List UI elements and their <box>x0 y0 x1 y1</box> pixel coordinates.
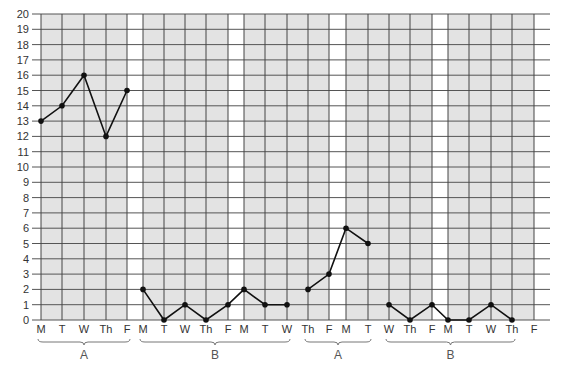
data-point-marker <box>225 302 231 308</box>
y-tick-label: 3 <box>23 268 29 280</box>
x-axis-day-labels: MTWThFMTWThFMTWThFMTWThFMTWThF <box>36 323 537 335</box>
data-point-marker <box>343 225 349 231</box>
x-tick-label: W <box>384 323 395 335</box>
x-tick-label: T <box>466 323 473 335</box>
x-tick-label: F <box>225 323 232 335</box>
x-tick-label: Th <box>100 323 113 335</box>
data-point-marker <box>305 287 311 293</box>
y-tick-label: 2 <box>23 283 29 295</box>
data-point-marker <box>365 241 371 247</box>
y-tick-label: 15 <box>17 85 29 97</box>
phase-bracket <box>305 339 371 345</box>
data-point-marker <box>509 317 515 323</box>
y-tick-label: 14 <box>17 100 29 112</box>
x-tick-label: M <box>239 323 248 335</box>
y-tick-label: 1 <box>23 299 29 311</box>
y-tick-label: 16 <box>17 69 29 81</box>
data-point-marker <box>182 302 188 308</box>
y-tick-label: 4 <box>23 253 29 265</box>
y-tick-label: 6 <box>23 222 29 234</box>
x-tick-label: Th <box>506 323 519 335</box>
x-tick-label: Th <box>404 323 417 335</box>
data-point-marker <box>262 302 268 308</box>
y-tick-label: 7 <box>23 207 29 219</box>
x-tick-label: M <box>341 323 350 335</box>
x-tick-label: T <box>161 323 168 335</box>
data-point-marker <box>407 317 413 323</box>
y-tick-label: 13 <box>17 115 29 127</box>
y-tick-label: 8 <box>23 192 29 204</box>
x-tick-label: M <box>138 323 147 335</box>
data-point-marker <box>59 103 65 109</box>
y-tick-label: 10 <box>17 161 29 173</box>
x-tick-label: T <box>262 323 269 335</box>
data-point-marker <box>161 317 167 323</box>
x-tick-label: Th <box>302 323 315 335</box>
y-tick-label: 0 <box>23 314 29 326</box>
y-tick-label: 19 <box>17 23 29 35</box>
x-tick-label: W <box>79 323 90 335</box>
horizontal-gridlines <box>32 14 550 320</box>
x-tick-label: F <box>531 323 538 335</box>
data-point-marker <box>241 287 247 293</box>
x-tick-label: F <box>326 323 333 335</box>
phase-bracket <box>386 339 515 345</box>
y-tick-label: 9 <box>23 176 29 188</box>
data-point-marker <box>203 317 209 323</box>
data-point-marker <box>429 302 435 308</box>
phase-bracket <box>38 339 130 345</box>
y-tick-label: 17 <box>17 54 29 66</box>
x-tick-label: M <box>36 323 45 335</box>
data-point-marker <box>81 72 87 78</box>
data-point-marker <box>326 271 332 277</box>
data-point-marker <box>124 88 130 94</box>
data-point-marker <box>386 302 392 308</box>
x-tick-label: W <box>486 323 497 335</box>
x-tick-label: W <box>180 323 191 335</box>
y-tick-label: 5 <box>23 238 29 250</box>
data-point-marker <box>140 287 146 293</box>
phase-label: B <box>211 348 219 362</box>
data-point-marker <box>38 118 44 124</box>
phase-label: A <box>80 348 88 362</box>
x-tick-label: F <box>124 323 131 335</box>
phase-label: B <box>446 348 454 362</box>
y-tick-label: 20 <box>17 8 29 20</box>
x-tick-label: T <box>59 323 66 335</box>
y-axis-tick-labels: 01234567891011121314151617181920 <box>17 8 29 326</box>
phase-bracket <box>140 339 290 345</box>
data-point-marker <box>466 317 472 323</box>
y-tick-label: 11 <box>18 146 29 158</box>
x-tick-label: M <box>443 323 452 335</box>
x-tick-label: W <box>282 323 293 335</box>
line-chart: 01234567891011121314151617181920 MTWThFM… <box>0 0 565 373</box>
data-point-marker <box>488 302 494 308</box>
data-point-marker <box>103 134 109 140</box>
x-tick-label: T <box>365 323 372 335</box>
y-tick-label: 18 <box>17 39 29 51</box>
x-tick-label: Th <box>200 323 213 335</box>
y-tick-label: 12 <box>17 130 29 142</box>
data-point-marker <box>445 317 451 323</box>
data-point-marker <box>284 302 290 308</box>
phase-brackets: ABAB <box>38 339 515 362</box>
x-tick-label: F <box>429 323 436 335</box>
phase-label: A <box>334 348 342 362</box>
